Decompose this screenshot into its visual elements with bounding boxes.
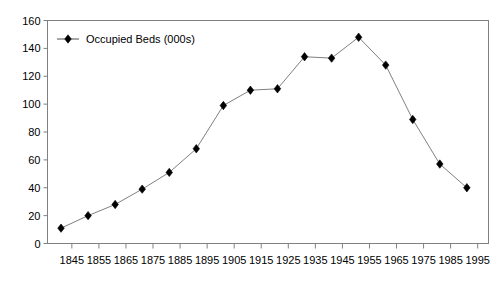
y-axis-tick-label: 140 — [22, 42, 40, 54]
x-axis-tick-label: 1855 — [87, 254, 111, 266]
x-axis-tick-label: 1965 — [384, 254, 408, 266]
x-axis-tick-label: 1865 — [114, 254, 138, 266]
x-axis-tick-label: 1875 — [141, 254, 165, 266]
x-axis-tick-label: 1915 — [249, 254, 273, 266]
x-axis-tick-label: 1985 — [438, 254, 462, 266]
x-axis-tick-label: 1845 — [60, 254, 84, 266]
y-axis-tick-label: 20 — [28, 210, 40, 222]
y-axis-tick-label: 60 — [28, 154, 40, 166]
y-axis-tick-label: 0 — [34, 238, 40, 250]
line-chart: 020406080100120140160 184518551865187518… — [0, 0, 504, 281]
chart-container: 020406080100120140160 184518551865187518… — [0, 0, 504, 281]
y-axis-tick-label: 80 — [28, 126, 40, 138]
y-axis-tick-label: 120 — [22, 70, 40, 82]
x-axis-tick-label: 1925 — [276, 254, 300, 266]
legend-label-occupied-beds: Occupied Beds (000s) — [86, 33, 195, 45]
x-axis-tick-label: 1935 — [303, 254, 327, 266]
x-axis-tick-label: 1885 — [168, 254, 192, 266]
x-axis-tick-label: 1955 — [357, 254, 381, 266]
y-axis-tick-label: 40 — [28, 182, 40, 194]
x-axis-tick-label: 1975 — [411, 254, 435, 266]
x-axis-tick-label: 1905 — [222, 254, 246, 266]
y-axis-tick-label: 100 — [22, 98, 40, 110]
x-axis-tick-label: 1945 — [330, 254, 354, 266]
x-axis-tick-label: 1895 — [195, 254, 219, 266]
x-axis-tick-label: 1995 — [465, 254, 489, 266]
y-axis-tick-label: 160 — [22, 15, 40, 27]
chart-background — [0, 0, 504, 281]
